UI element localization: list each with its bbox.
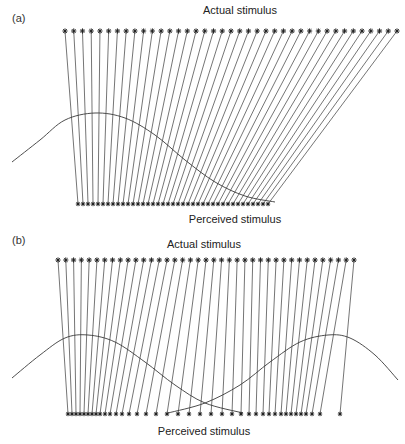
star-marker-icon <box>191 202 195 206</box>
mapping-line <box>137 260 167 414</box>
mapping-line <box>133 31 161 204</box>
star-marker-icon <box>87 257 92 262</box>
mapping-line <box>122 260 151 414</box>
star-marker-icon <box>161 202 165 206</box>
mapping-line <box>249 260 253 414</box>
star-marker-icon <box>98 412 102 416</box>
star-marker-icon <box>227 257 232 262</box>
star-marker-icon <box>141 28 146 33</box>
star-marker-icon <box>359 28 364 33</box>
mapping-line <box>263 31 388 204</box>
star-marker-icon <box>150 28 155 33</box>
star-marker-icon <box>239 412 243 416</box>
star-marker-icon <box>171 202 175 206</box>
star-marker-icon <box>141 257 146 262</box>
panel-b <box>12 257 398 416</box>
attention-gaussian-curve <box>12 113 275 202</box>
star-marker-icon <box>344 257 349 262</box>
mapping-line <box>269 260 276 414</box>
star-marker-icon <box>176 202 180 206</box>
star-marker-icon <box>124 28 129 33</box>
mapping-line <box>143 31 179 204</box>
star-marker-icon <box>159 28 164 33</box>
star-marker-icon <box>394 28 399 33</box>
mapping-line <box>248 31 362 204</box>
star-marker-icon <box>146 202 150 206</box>
star-marker-icon <box>102 257 107 262</box>
star-marker-icon <box>351 257 356 262</box>
star-marker-icon <box>255 28 260 33</box>
star-marker-icon <box>221 202 225 206</box>
mapping-line <box>118 31 135 204</box>
star-marker-icon <box>294 412 298 416</box>
star-marker-icon <box>201 202 205 206</box>
mapping-line <box>183 31 248 204</box>
mapping-line <box>208 31 292 204</box>
star-marker-icon <box>144 412 148 416</box>
star-marker-icon <box>141 202 145 206</box>
mapping-line <box>232 260 237 414</box>
star-marker-icon <box>151 202 155 206</box>
star-marker-icon <box>235 257 240 262</box>
star-marker-icon <box>176 412 180 416</box>
star-marker-icon <box>74 412 78 416</box>
star-marker-icon <box>242 257 247 262</box>
star-marker-icon <box>247 412 251 416</box>
star-marker-icon <box>165 412 169 416</box>
star-marker-icon <box>103 412 107 416</box>
mapping-line <box>286 260 299 414</box>
star-marker-icon <box>120 412 124 416</box>
star-marker-icon <box>70 412 74 416</box>
star-marker-icon <box>281 28 286 33</box>
star-marker-icon <box>209 412 213 416</box>
star-marker-icon <box>176 28 181 33</box>
mapping-line <box>168 31 222 204</box>
mapping-line <box>258 31 380 204</box>
mapping-line <box>193 31 266 204</box>
star-marker-icon <box>237 28 242 33</box>
star-marker-icon <box>284 412 288 416</box>
mapping-line <box>88 260 97 414</box>
star-marker-icon <box>76 202 80 206</box>
star-marker-icon <box>251 202 255 206</box>
star-marker-icon <box>351 28 356 33</box>
star-marker-icon <box>106 202 110 206</box>
attention-gaussian-right-curve <box>168 335 398 413</box>
star-marker-icon <box>220 28 225 33</box>
star-marker-icon <box>241 202 245 206</box>
star-marker-icon <box>71 257 76 262</box>
star-marker-icon <box>333 28 338 33</box>
star-marker-icon <box>96 202 100 206</box>
star-marker-icon <box>307 28 312 33</box>
star-marker-icon <box>246 28 251 33</box>
star-marker-icon <box>133 257 138 262</box>
mapping-line <box>238 31 345 204</box>
star-marker-icon <box>202 28 207 33</box>
star-marker-icon <box>338 412 342 416</box>
star-marker-icon <box>79 257 84 262</box>
star-marker-icon <box>305 257 310 262</box>
star-marker-icon <box>91 202 95 206</box>
mapping-line <box>108 31 117 204</box>
star-marker-icon <box>94 257 99 262</box>
mapping-line <box>105 260 128 414</box>
star-marker-icon <box>266 257 271 262</box>
stimulus-mapping-diagram <box>0 0 405 444</box>
star-marker-icon <box>336 257 341 262</box>
mapping-line <box>222 260 229 414</box>
star-marker-icon <box>164 257 169 262</box>
star-marker-icon <box>90 412 94 416</box>
star-marker-icon <box>78 412 82 416</box>
star-marker-icon <box>185 28 190 33</box>
star-marker-icon <box>316 28 321 33</box>
star-marker-icon <box>86 202 90 206</box>
star-marker-icon <box>71 28 76 33</box>
star-marker-icon <box>325 28 330 33</box>
star-marker-icon <box>55 257 60 262</box>
star-marker-icon <box>116 202 120 206</box>
mapping-line <box>256 260 261 414</box>
star-marker-icon <box>196 257 201 262</box>
mapping-line <box>74 31 83 204</box>
star-marker-icon <box>126 257 131 262</box>
star-marker-icon <box>203 257 208 262</box>
